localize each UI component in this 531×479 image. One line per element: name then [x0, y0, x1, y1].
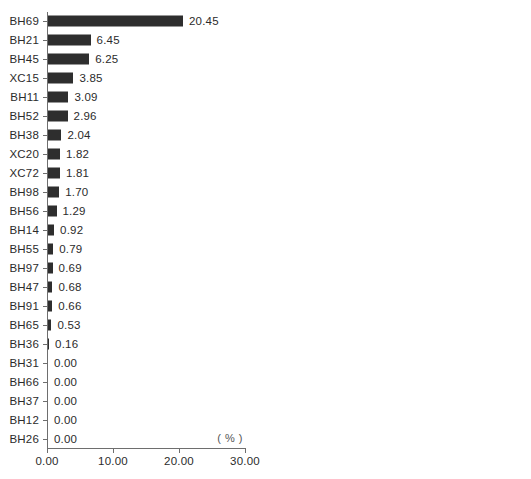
bar-value-label: 6.45 — [97, 34, 120, 46]
bar-value-label: 6.25 — [95, 53, 118, 65]
bar-row: XC721.81 — [47, 164, 245, 183]
category-label: XC20 — [9, 148, 39, 160]
y-axis-tick — [43, 344, 47, 345]
bar-value-label: 1.82 — [66, 148, 89, 160]
bar — [48, 281, 52, 292]
bar-value-label: 0.16 — [55, 338, 78, 350]
bar-value-label: 0.00 — [54, 414, 77, 426]
bar-row: BH650.53 — [47, 315, 245, 334]
category-label: BH38 — [9, 129, 39, 141]
bar — [48, 168, 60, 179]
bar-value-label: 3.85 — [79, 72, 102, 84]
category-label: BH31 — [9, 357, 39, 369]
y-axis-tick — [43, 439, 47, 440]
category-label: BH45 — [9, 53, 39, 65]
bar — [48, 224, 54, 235]
x-tick-label: 30.00 — [230, 455, 260, 467]
bar-row: BH660.00 — [47, 372, 245, 391]
category-label: BH66 — [9, 376, 39, 388]
y-axis-tick — [43, 116, 47, 117]
bar-row: BH310.00 — [47, 353, 245, 372]
bar-row: XC201.82 — [47, 145, 245, 164]
category-label: BH37 — [9, 395, 39, 407]
bar-value-label: 0.00 — [54, 357, 77, 369]
bar — [48, 92, 68, 103]
category-label: BH11 — [10, 91, 39, 103]
plot-area-left: BH6920.45BH216.45BH456.25XC153.85BH113.0… — [47, 12, 245, 448]
bar-row: BH470.68 — [47, 277, 245, 296]
bar-row: BH981.70 — [47, 183, 245, 202]
y-axis-tick — [43, 173, 47, 174]
y-axis-tick — [43, 401, 47, 402]
bar-row: BH216.45 — [47, 31, 245, 50]
bar-row: BH6920.45 — [47, 12, 245, 31]
bar-row: BH370.00 — [47, 391, 245, 410]
y-axis-tick — [43, 21, 47, 22]
y-axis-tick — [43, 97, 47, 98]
category-label: BH26 — [9, 433, 39, 445]
bar — [48, 319, 51, 330]
bar — [48, 300, 52, 311]
y-axis-tick — [43, 230, 47, 231]
category-label: BH21 — [9, 34, 39, 46]
category-label: BH52 — [9, 110, 39, 122]
y-axis-tick — [43, 268, 47, 269]
bar-value-label: 0.68 — [58, 281, 81, 293]
category-label: BH91 — [9, 300, 39, 312]
y-axis-tick — [43, 154, 47, 155]
bar-value-label: 0.53 — [57, 319, 80, 331]
x-axis-ticks-left: 0.0010.0020.0030.00 — [47, 448, 245, 478]
chart-panel-left: BH6920.45BH216.45BH456.25XC153.85BH113.0… — [0, 0, 270, 479]
bar — [48, 111, 68, 122]
category-label: BH14 — [9, 224, 39, 236]
bar — [48, 35, 91, 46]
bar — [48, 262, 53, 273]
bar — [48, 187, 59, 198]
y-axis-tick — [43, 40, 47, 41]
bar — [48, 338, 49, 349]
x-tick-mark — [113, 448, 114, 453]
x-tick-mark — [47, 448, 48, 453]
bar-rows-left: BH6920.45BH216.45BH456.25XC153.85BH113.0… — [47, 12, 245, 448]
y-axis-tick — [43, 287, 47, 288]
bar-row: BH561.29 — [47, 202, 245, 221]
y-axis-tick — [43, 306, 47, 307]
y-axis-tick — [43, 420, 47, 421]
bar-value-label: 2.04 — [67, 129, 90, 141]
bar-row: BH113.09 — [47, 88, 245, 107]
x-tick-label: 10.00 — [98, 455, 128, 467]
bar — [48, 149, 60, 160]
bar-row: XC153.85 — [47, 69, 245, 88]
bar-value-label: 1.29 — [63, 205, 86, 217]
dual-bar-chart-figure: BH6920.45BH216.45BH456.25XC153.85BH113.0… — [0, 0, 531, 479]
bar-row: BH140.92 — [47, 221, 245, 240]
x-tick-label: 20.00 — [164, 455, 194, 467]
category-label: BH36 — [9, 338, 39, 350]
bar-row: BH970.69 — [47, 258, 245, 277]
bar-value-label: 1.81 — [66, 167, 89, 179]
y-axis-tick — [43, 249, 47, 250]
bar-row: BH456.25 — [47, 50, 245, 69]
bar-value-label: 0.69 — [59, 262, 82, 274]
bar-row: BH550.79 — [47, 239, 245, 258]
bar-value-label: 0.00 — [54, 395, 77, 407]
bar-row: BH120.00 — [47, 410, 245, 429]
bar-value-label: 1.70 — [65, 186, 88, 198]
bar — [48, 16, 183, 27]
category-label: BH12 — [9, 414, 39, 426]
y-axis-tick — [43, 135, 47, 136]
y-axis-tick — [43, 363, 47, 364]
bar — [48, 54, 89, 65]
bar-row: BH360.16 — [47, 334, 245, 353]
bar — [48, 243, 53, 254]
y-axis-tick — [43, 211, 47, 212]
bar-row: BH910.66 — [47, 296, 245, 315]
y-axis-tick — [43, 78, 47, 79]
y-axis-tick — [43, 382, 47, 383]
category-label: BH98 — [9, 186, 39, 198]
x-tick-label: 0.00 — [35, 455, 58, 467]
category-label: BH97 — [9, 262, 39, 274]
bar — [48, 206, 57, 217]
bar-value-label: 0.00 — [54, 433, 77, 445]
y-axis-tick — [43, 59, 47, 60]
